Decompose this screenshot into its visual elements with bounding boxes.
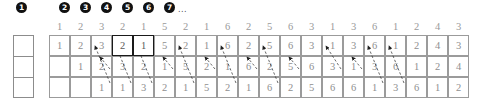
grid-cell[interactable]: 3 <box>322 56 343 77</box>
grid-cell[interactable]: 3 <box>112 56 133 77</box>
grid-cell[interactable]: 1 <box>385 35 406 56</box>
grid-cell[interactable]: 6 <box>301 56 322 77</box>
grid-column: 125 <box>196 35 217 98</box>
initial-empty-cell <box>14 78 33 99</box>
header-value: 1 <box>133 20 154 34</box>
header-value: 3 <box>91 20 112 34</box>
step-bullet-1: 1 <box>16 2 27 13</box>
grid-column: 1 <box>49 35 70 98</box>
grid-cell[interactable]: 2 <box>238 35 259 56</box>
grid-cell[interactable]: 5 <box>301 77 322 98</box>
grid-cell[interactable]: 6 <box>406 77 427 98</box>
initial-empty-cell <box>14 36 33 57</box>
header-value: 1 <box>49 20 70 34</box>
grid-cell[interactable]: 6 <box>238 56 259 77</box>
grid-cell-empty[interactable] <box>49 56 70 77</box>
initial-empty-column <box>13 35 34 98</box>
grid-cell[interactable]: 4 <box>448 56 469 77</box>
grid-cell[interactable]: 3 <box>448 35 469 56</box>
grid-cell[interactable]: 2 <box>91 56 112 77</box>
grid-column: 342 <box>448 35 469 98</box>
grid-cell[interactable]: 1 <box>427 77 448 98</box>
step-bullet-ellipsis: ... <box>178 5 187 14</box>
header-value: 1 <box>196 20 217 34</box>
header-value: 6 <box>364 20 385 34</box>
grid-column: 231 <box>112 35 133 98</box>
grid-cell[interactable]: 5 <box>259 35 280 56</box>
grid-cell[interactable]: 2 <box>70 35 91 56</box>
grid-cell[interactable]: 6 <box>343 77 364 98</box>
grid-cell[interactable]: 2 <box>280 77 301 98</box>
grid-column: 321 <box>91 35 112 98</box>
grid-cell[interactable]: 1 <box>91 77 112 98</box>
grid-cell[interactable]: 6 <box>385 56 406 77</box>
grid-cell[interactable]: 3 <box>343 35 364 56</box>
grid-cell[interactable]: 2 <box>175 35 196 56</box>
grid-column: 136 <box>322 35 343 98</box>
grid-cell-empty[interactable] <box>49 77 70 98</box>
grid-cell[interactable]: 2 <box>154 77 175 98</box>
grid-cell[interactable]: 5 <box>280 56 301 77</box>
grid-cell[interactable]: 3 <box>301 35 322 56</box>
grid-cell[interactable]: 1 <box>238 77 259 98</box>
step-bullet-7: 7 <box>164 2 175 13</box>
grid-column: 421 <box>427 35 448 98</box>
grid-cell[interactable]: 1 <box>196 35 217 56</box>
grid-cell[interactable]: 1 <box>112 77 133 98</box>
grid-cell[interactable]: 2 <box>406 35 427 56</box>
grid-cell[interactable]: 1 <box>364 77 385 98</box>
grid-column: 21 <box>70 35 91 98</box>
grid-cell[interactable]: 1 <box>70 56 91 77</box>
grid-column: 526 <box>259 35 280 98</box>
grid-cell[interactable]: 2 <box>448 77 469 98</box>
grid-column: 365 <box>301 35 322 98</box>
grid-cell[interactable]: 1 <box>406 56 427 77</box>
grid-column: 316 <box>343 35 364 98</box>
step-bullet-4: 4 <box>101 2 112 13</box>
grid-column: 123 <box>133 35 154 98</box>
grid-cell[interactable]: 3 <box>385 77 406 98</box>
grid-cell[interactable]: 1 <box>343 56 364 77</box>
grid-cell[interactable]: 6 <box>217 35 238 56</box>
grid-cell[interactable]: 1 <box>49 35 70 56</box>
grid-cell[interactable]: 4 <box>427 35 448 56</box>
header-value: 2 <box>112 20 133 34</box>
grid-cell[interactable]: 6 <box>364 35 385 56</box>
header-value: 3 <box>301 20 322 34</box>
grid-cell-highlighted[interactable]: 2 <box>112 35 133 56</box>
grid-cell-highlighted[interactable]: 1 <box>133 35 154 56</box>
grid-cell[interactable]: 6 <box>280 35 301 56</box>
grid-cell[interactable]: 1 <box>322 35 343 56</box>
grid-column: 163 <box>385 35 406 98</box>
header-value: 2 <box>175 20 196 34</box>
grid-cell[interactable]: 1 <box>175 77 196 98</box>
grid-cell[interactable]: 3 <box>91 35 112 56</box>
grid-cell[interactable]: 5 <box>175 56 196 77</box>
grid-cell[interactable]: 6 <box>322 77 343 98</box>
header-value: 6 <box>280 20 301 34</box>
header-value: 5 <box>259 20 280 34</box>
header-value: 3 <box>448 20 469 34</box>
grid-cell-empty[interactable] <box>70 77 91 98</box>
grid-cell[interactable]: 2 <box>259 56 280 77</box>
grid-column: 251 <box>175 35 196 98</box>
header-value: 1 <box>385 20 406 34</box>
grid-cell[interactable]: 2 <box>133 56 154 77</box>
grid-cell[interactable]: 5 <box>154 35 175 56</box>
grid-cell[interactable]: 6 <box>259 77 280 98</box>
grid-cell[interactable]: 3 <box>364 56 385 77</box>
grid-cell[interactable]: 2 <box>196 56 217 77</box>
step-bullet-2: 2 <box>59 2 70 13</box>
grid-cell[interactable]: 1 <box>217 56 238 77</box>
grid-cell[interactable]: 3 <box>133 77 154 98</box>
header-value: 5 <box>154 20 175 34</box>
grid-cell[interactable]: 5 <box>196 77 217 98</box>
grid-cell[interactable]: 2 <box>427 56 448 77</box>
step-bullet-row: 1234567... <box>0 2 497 18</box>
grid-column: 612 <box>217 35 238 98</box>
initial-empty-cell <box>14 57 33 78</box>
grid-column: 631 <box>364 35 385 98</box>
grid-cell[interactable]: 1 <box>154 56 175 77</box>
header-value: 1 <box>322 20 343 34</box>
grid-cell[interactable]: 2 <box>217 77 238 98</box>
